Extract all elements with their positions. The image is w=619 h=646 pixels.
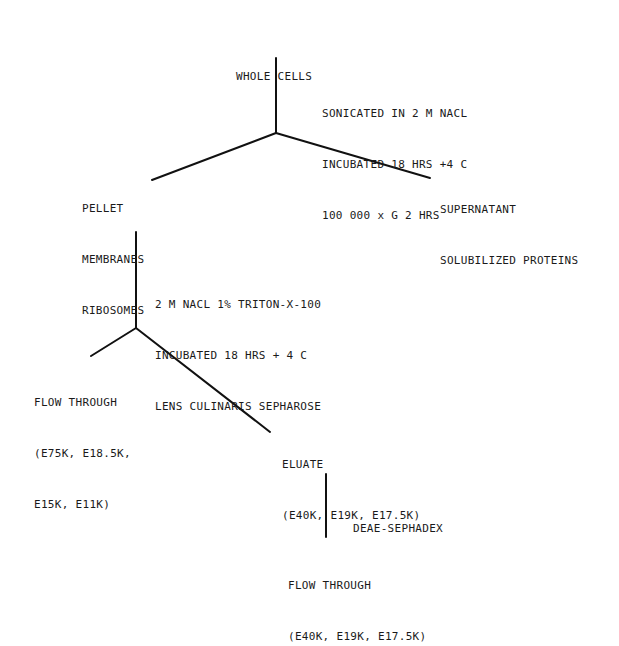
- eluate-title: ELUATE: [282, 456, 420, 473]
- node-pellet: PELLET MEMBRANES RIBOSOMES: [82, 166, 144, 353]
- flow-through-1-title: FLOW THROUGH: [34, 394, 131, 411]
- step2-line-1: 2 M NACL 1% TRITON-X-100: [155, 296, 321, 313]
- step1-line-1: SONICATED IN 2 M NACL: [322, 105, 467, 122]
- flow-through-2-title: FLOW THROUGH: [288, 577, 426, 594]
- step2-line-2: INCUBATED 18 HRS + 4 C: [155, 347, 321, 364]
- step2-conditions: 2 M NACL 1% TRITON-X-100 INCUBATED 18 HR…: [155, 262, 321, 449]
- flow-through-1-line-3: E15K, E11K): [34, 496, 131, 513]
- flow-through-1-line-2: (E75K, E18.5K,: [34, 445, 131, 462]
- edge-split-to-pellet: [152, 133, 276, 180]
- flow-through-2-line-2: (E40K, E19K, E17.5K): [288, 628, 426, 645]
- pellet-line-3: RIBOSOMES: [82, 302, 144, 319]
- node-whole-cells-title: WHOLE CELLS: [236, 68, 312, 85]
- pellet-line-2: MEMBRANES: [82, 251, 144, 268]
- node-whole-cells: WHOLE CELLS: [236, 34, 312, 119]
- node-flow-through-1: FLOW THROUGH (E75K, E18.5K, E15K, E11K): [34, 360, 131, 547]
- node-flow-through-2: FLOW THROUGH (E40K, E19K, E17.5K): [288, 543, 426, 646]
- supernatant-title: SUPERNATANT: [440, 201, 578, 218]
- node-supernatant: SUPERNATANT SOLUBILIZED PROTEINS: [440, 167, 578, 303]
- step3-line-1: DEAE-SEPHADEX: [353, 520, 443, 537]
- supernatant-line-2: SOLUBILIZED PROTEINS: [440, 252, 578, 269]
- step2-line-3: LENS CULINARIS SEPHAROSE: [155, 398, 321, 415]
- pellet-title: PELLET: [82, 200, 144, 217]
